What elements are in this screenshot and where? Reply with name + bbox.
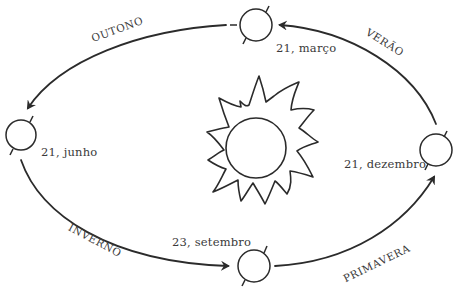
date-label-dezembro: 21, dezembro: [344, 157, 426, 171]
earth-icon-setembro: [238, 246, 270, 286]
earth-icon-junho: [6, 116, 36, 155]
date-label-marco: 21, março: [276, 41, 336, 55]
sun-icon: [207, 76, 318, 204]
date-label-junho: 21, junho: [41, 145, 97, 159]
orbit-diagram: 21, março 21, junho 23, setembro 21, dez…: [0, 0, 454, 300]
date-label-setembro: 23, setembro: [172, 235, 251, 249]
orbit-arc-inverno: [21, 160, 228, 266]
earth-icon-marco: [230, 6, 272, 44]
orbit-arc-outono: [28, 25, 226, 108]
